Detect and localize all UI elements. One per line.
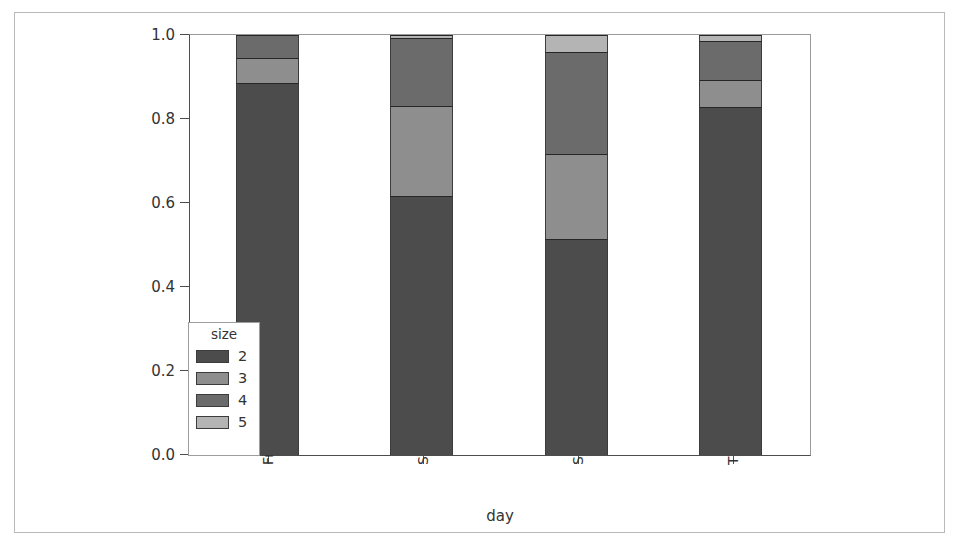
legend-row-4: 4 bbox=[196, 390, 252, 412]
y-tick-label-1: 0.2 bbox=[151, 362, 175, 380]
bar-column-sat[interactable] bbox=[390, 35, 453, 455]
y-tick-label-5: 1.0 bbox=[151, 26, 175, 44]
bar-segment-thur-size-3[interactable] bbox=[699, 80, 762, 106]
y-tick-label-2: 0.4 bbox=[151, 278, 175, 296]
y-tick-2: 0.4 bbox=[180, 286, 189, 287]
bar-segment-thur-size-4[interactable] bbox=[699, 41, 762, 80]
legend-swatch-2 bbox=[196, 350, 229, 363]
y-tick-label-4: 0.8 bbox=[151, 110, 175, 128]
x-axis-label: day bbox=[190, 507, 810, 525]
bar-segment-sat-size-3[interactable] bbox=[390, 106, 453, 195]
legend-swatch-4 bbox=[196, 394, 229, 407]
legend-row-2: 2 bbox=[196, 346, 252, 368]
bar-segment-thur-size-2[interactable] bbox=[699, 107, 762, 455]
legend-label-3: 3 bbox=[238, 371, 247, 386]
legend-row-5: 5 bbox=[196, 412, 252, 434]
bar-segment-fri-size-3[interactable] bbox=[236, 58, 299, 83]
legend-swatch-5 bbox=[196, 416, 229, 429]
plot-area: 0.0 0.2 0.4 0.6 0.8 1.0 Fri Sat Sun Thur… bbox=[189, 34, 811, 456]
y-tick-3: 0.6 bbox=[180, 202, 189, 203]
bar-segment-sat-size-2[interactable] bbox=[390, 196, 453, 455]
bar-segment-sat-size-5[interactable] bbox=[390, 35, 453, 38]
figure-frame: 0.0 0.2 0.4 0.6 0.8 1.0 Fri Sat Sun Thur… bbox=[14, 12, 945, 533]
legend-row-3: 3 bbox=[196, 368, 252, 390]
legend-label-4: 4 bbox=[238, 393, 247, 408]
bar-segment-sun-size-3[interactable] bbox=[545, 154, 608, 239]
legend: size 2 3 4 5 bbox=[188, 322, 260, 456]
y-tick-4: 0.8 bbox=[180, 118, 189, 119]
y-tick-label-0: 0.0 bbox=[151, 446, 175, 464]
bar-segment-sat-size-4[interactable] bbox=[390, 38, 453, 106]
legend-swatch-3 bbox=[196, 372, 229, 385]
bar-segment-sun-size-5[interactable] bbox=[545, 35, 608, 52]
legend-label-5: 5 bbox=[238, 415, 247, 430]
y-tick-5: 1.0 bbox=[180, 34, 189, 35]
bar-segment-sun-size-2[interactable] bbox=[545, 239, 608, 455]
bar-segment-thur-size-5[interactable] bbox=[699, 35, 762, 41]
legend-label-2: 2 bbox=[238, 349, 247, 364]
legend-title: size bbox=[196, 328, 252, 342]
bar-column-thur[interactable] bbox=[699, 35, 762, 455]
bar-segment-fri-size-4[interactable] bbox=[236, 35, 299, 58]
bar-column-sun[interactable] bbox=[545, 35, 608, 455]
y-tick-label-3: 0.6 bbox=[151, 194, 175, 212]
bar-segment-sun-size-4[interactable] bbox=[545, 52, 608, 154]
